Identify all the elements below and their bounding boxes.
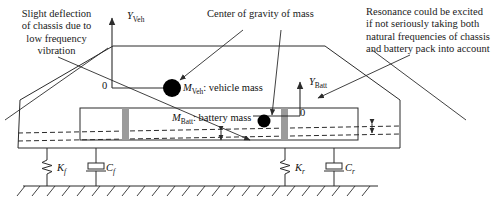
front-spring-subscript: f (64, 167, 66, 176)
leader-left-note-2 (5, 48, 108, 120)
battery-mass-subscript: Batt (181, 117, 193, 126)
ground-hatching (17, 186, 370, 196)
front-damper-subscript: f (113, 167, 115, 176)
vehicle-mass-subscript: Veh (192, 87, 204, 96)
leader-cg-battery (272, 30, 281, 115)
rear-spring-subscript: r (302, 167, 305, 176)
rear-spring-symbol-text: K (295, 162, 302, 173)
annotation-chassis-deflection: Slight deflection of chassis due to low … (4, 8, 109, 58)
vehicle-axis-lines (112, 18, 172, 88)
ground-line (17, 186, 378, 196)
vehicle-axis-origin-label: 0 (102, 80, 107, 91)
front-damper-symbol-text: C (106, 162, 113, 173)
annotation-resonance-warning: Resonance could be excited if not seriou… (366, 6, 494, 56)
front-spring-symbol (42, 148, 52, 186)
vehicle-axis-subscript: Veh (133, 15, 145, 24)
front-damper-symbol (86, 148, 106, 186)
battery-axis-label: YBatt (309, 76, 327, 90)
vehicle-mass-description: : vehicle mass (203, 82, 262, 93)
front-spring-symbol-text: K (57, 162, 64, 173)
battery-mass-description: : battery mass (193, 112, 251, 123)
vehicle-cg-marker (163, 79, 181, 97)
leader-left-note (58, 57, 250, 140)
leader-right-note (318, 55, 410, 98)
rear-spring-label: Kr (295, 162, 305, 176)
chassis-deflection-lines (18, 126, 400, 141)
rear-damper-symbol (324, 148, 344, 186)
annotation-center-of-gravity: Center of gravity of mass (207, 8, 357, 20)
rear-spring-symbol (280, 148, 290, 186)
vehicle-axis-label: YVeh (127, 10, 144, 24)
battery-mass-label: MBatt: battery mass (172, 112, 251, 126)
battery-axis-subscript: Batt (315, 81, 327, 90)
chassis-body-outline (18, 46, 400, 148)
vibration-model-figure: Slight deflection of chassis due to low … (0, 0, 495, 203)
battery-axis-origin-label: 0 (300, 107, 305, 118)
rear-damper-subscript: r (352, 167, 355, 176)
vehicle-mass-symbol: M (183, 82, 192, 93)
battery-cg-marker (258, 115, 271, 128)
battery-mount-bar-left (122, 108, 129, 140)
front-spring-label: Kf (57, 162, 66, 176)
rear-damper-symbol-text: C (345, 162, 352, 173)
leader-right-note-2 (372, 50, 466, 120)
front-damper-label: Cf (106, 162, 115, 176)
rear-damper-label: Cr (345, 162, 355, 176)
leader-cg-vehicle (180, 30, 243, 80)
vehicle-mass-label: MVeh: vehicle mass (183, 82, 263, 96)
battery-mount-bar-right (281, 108, 288, 140)
battery-mass-symbol: M (172, 112, 181, 123)
